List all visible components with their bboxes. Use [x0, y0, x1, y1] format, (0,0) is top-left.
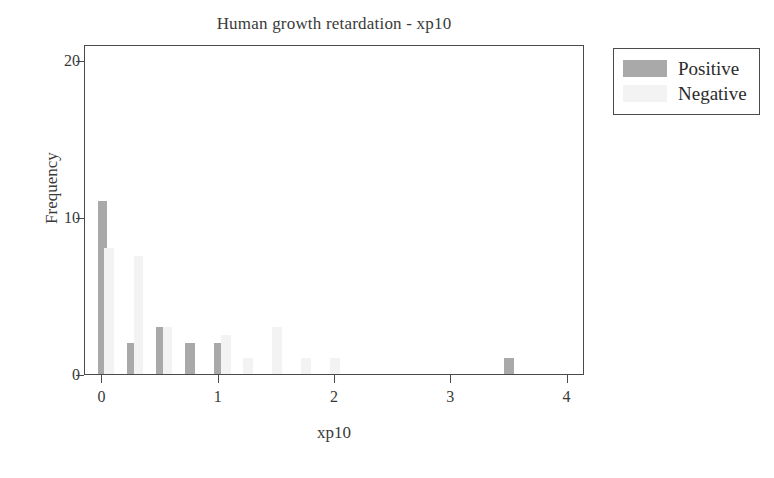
x-tick-label: 4	[547, 388, 587, 406]
legend-item-negative[interactable]: Negative	[623, 81, 747, 106]
x-tick-mark	[101, 375, 102, 383]
bar-negative-1.75	[301, 358, 311, 374]
x-tick-mark	[218, 375, 219, 383]
legend-swatch-negative	[623, 85, 667, 102]
chart-figure: Human growth retardation - xp10 Frequenc…	[0, 0, 774, 478]
y-tick-label: 0	[40, 366, 80, 384]
bar-negative-1.25	[243, 358, 253, 374]
bar-positive-3.5	[504, 358, 514, 374]
legend-item-positive[interactable]: Positive	[623, 56, 747, 81]
x-tick-mark	[567, 375, 568, 383]
x-tick-mark	[334, 375, 335, 383]
chart-legend: Positive Negative	[613, 48, 760, 115]
x-tick-label: 1	[198, 388, 238, 406]
legend-label-positive: Positive	[678, 59, 739, 78]
bar-negative-1.06	[221, 335, 231, 374]
legend-label-negative: Negative	[678, 84, 747, 103]
bar-negative-0.56	[163, 327, 173, 374]
bar-negative-2	[330, 358, 340, 374]
bar-negative-0.31	[134, 256, 144, 374]
chart-title: Human growth retardation - xp10	[84, 14, 584, 34]
y-tick-label: 20	[40, 52, 80, 70]
bar-negative-1.5	[272, 327, 282, 374]
y-axis-label: Frequency	[42, 128, 62, 248]
bars-layer	[85, 46, 583, 374]
bar-negative-0.06	[104, 248, 114, 374]
x-tick-label: 2	[314, 388, 354, 406]
x-tick-label: 0	[81, 388, 121, 406]
plot-area	[84, 45, 584, 375]
bar-positive-0.75	[185, 343, 195, 374]
x-tick-mark	[450, 375, 451, 383]
x-axis-label: xp10	[84, 423, 584, 443]
x-tick-label: 3	[430, 388, 470, 406]
legend-swatch-positive	[623, 60, 667, 77]
y-tick-label: 10	[40, 209, 80, 227]
